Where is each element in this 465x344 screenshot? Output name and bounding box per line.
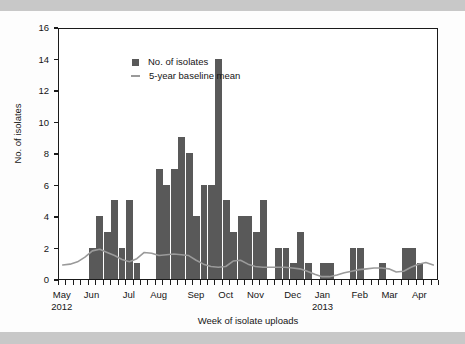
x-tick-mark (252, 280, 253, 285)
x-tick-mark (378, 280, 379, 285)
x-tick-mark (401, 280, 402, 285)
y-tick-label: 16 (38, 23, 49, 33)
x-tick-mark (125, 280, 126, 285)
x-tick-mark (140, 280, 141, 285)
x-tick-mark (423, 280, 424, 285)
x-tick-label: Feb (352, 289, 368, 300)
x-tick-mark (88, 280, 89, 285)
x-tick-mark (229, 280, 230, 285)
baseline-mean-line-layer (59, 29, 437, 279)
x-tick-mark (170, 280, 171, 285)
legend-item-baseline: 5-year baseline mean (131, 69, 240, 83)
plot-area: No. of isolates 5-year baseline mean (58, 28, 438, 280)
x-tick-mark (282, 280, 283, 285)
x-tick-mark (326, 280, 327, 285)
x-tick-label: Oct (218, 289, 233, 300)
x-tick-mark (296, 280, 297, 285)
x-tick-mark (274, 280, 275, 285)
x-tick-mark (386, 280, 387, 285)
x-tick-label: Jul (123, 289, 135, 300)
x-tick-mark (289, 280, 290, 285)
x-tick-mark (133, 280, 134, 285)
baseline-mean-svg (59, 29, 437, 279)
x-tick-mark (65, 280, 66, 285)
x-tick-label: Nov (247, 289, 264, 300)
baseline-mean-polyline (63, 249, 434, 276)
y-tick-label: 8 (44, 149, 49, 159)
x-tick-mark (222, 280, 223, 285)
x-tick-mark (110, 280, 111, 285)
x-tick-mark (311, 280, 312, 285)
x-tick-mark (103, 280, 104, 285)
x-tick-mark (408, 280, 409, 285)
top-gray-band (0, 0, 465, 11)
y-axis: No. of isolates 0246810121416 (0, 28, 58, 280)
legend-square-icon (132, 59, 139, 66)
x-tick-mark (438, 280, 439, 285)
x-tick-mark (319, 280, 320, 285)
x-tick-mark (73, 280, 74, 285)
x-tick-mark (185, 280, 186, 285)
x-tick-mark (207, 280, 208, 285)
x-tick-mark (267, 280, 268, 285)
y-tick-label: 4 (44, 212, 49, 222)
x-tick-mark (237, 280, 238, 285)
x-tick-mark (95, 280, 96, 285)
legend-label-baseline: 5-year baseline mean (149, 71, 240, 81)
x-tick-label: Mar (381, 289, 397, 300)
chart-figure: No. of isolates 0246810121416 No. of iso… (0, 11, 465, 332)
x-tick-mark (341, 280, 342, 285)
x-tick-sublabel: 2013 (312, 301, 333, 312)
x-tick-label: Jun (84, 289, 99, 300)
figure-page: No. of isolates 0246810121416 No. of iso… (0, 0, 465, 344)
legend-item-isolates: No. of isolates (131, 55, 240, 69)
x-tick-mark (200, 280, 201, 285)
x-tick-mark (192, 280, 193, 285)
x-tick-mark (304, 280, 305, 285)
x-tick-mark (259, 280, 260, 285)
legend-label-isolates: No. of isolates (148, 57, 208, 67)
x-tick-mark (356, 280, 357, 285)
x-tick-sublabel: 2012 (51, 301, 72, 312)
x-tick-label: Sep (187, 289, 204, 300)
legend: No. of isolates 5-year baseline mean (131, 55, 240, 83)
y-tick-label: 0 (44, 275, 49, 285)
x-tick-mark (393, 280, 394, 285)
x-tick-mark (334, 280, 335, 285)
x-tick-mark (162, 280, 163, 285)
y-tick-label: 14 (38, 55, 49, 65)
x-tick-mark (118, 280, 119, 285)
x-tick-label: Jan (315, 289, 330, 300)
x-axis-title: Week of isolate uploads (58, 315, 438, 326)
x-tick-mark (155, 280, 156, 285)
x-tick-mark (58, 280, 59, 285)
x-tick-mark (177, 280, 178, 285)
x-tick-label: May (53, 289, 71, 300)
x-tick-mark (244, 280, 245, 285)
y-tick-label: 6 (44, 181, 49, 191)
x-tick-mark (80, 280, 81, 285)
y-tick-label: 12 (38, 86, 49, 96)
x-tick-mark (147, 280, 148, 285)
legend-line-icon (131, 75, 140, 77)
x-tick-mark (431, 280, 432, 285)
x-tick-mark (349, 280, 350, 285)
bottom-gray-band (0, 332, 465, 344)
x-tick-mark (214, 280, 215, 285)
y-tick-label: 2 (44, 244, 49, 254)
x-tick-label: Apr (412, 289, 427, 300)
y-tick-label: 10 (38, 118, 49, 128)
x-tick-mark (363, 280, 364, 285)
y-axis-title: No. of isolates (12, 69, 23, 199)
x-tick-label: Dec (284, 289, 301, 300)
x-tick-mark (416, 280, 417, 285)
x-tick-label: Aug (150, 289, 167, 300)
x-tick-mark (371, 280, 372, 285)
